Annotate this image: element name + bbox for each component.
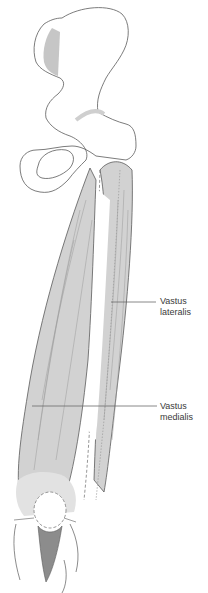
label-vastus-lateralis-line1: Vastus <box>160 296 191 307</box>
label-vastus-lateralis-line2: lateralis <box>160 307 191 318</box>
label-vastus-medialis-line2: medialis <box>160 412 193 423</box>
label-vastus-lateralis: Vastus lateralis <box>160 296 191 318</box>
vastus-muscles <box>18 162 132 513</box>
vastus-medialis <box>18 168 96 513</box>
patella <box>34 492 66 528</box>
patellar-tendon <box>38 526 62 582</box>
label-vastus-medialis-line1: Vastus <box>160 401 193 412</box>
knee-region <box>14 472 78 593</box>
label-vastus-medialis: Vastus medialis <box>160 401 193 423</box>
